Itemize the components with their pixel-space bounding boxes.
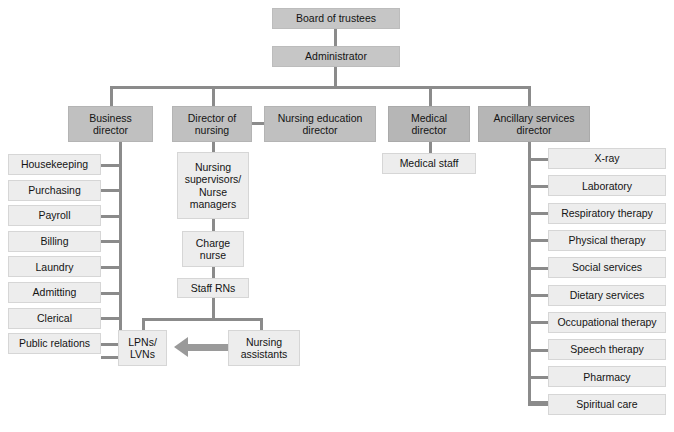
business-unit-connector-0 xyxy=(101,164,122,167)
business-unit-connector-4 xyxy=(101,266,122,269)
connector-board-to-administrator xyxy=(334,29,337,46)
ancillary-unit-0: X-ray xyxy=(548,148,666,169)
ancillary-unit-5: Dietary services xyxy=(548,285,666,306)
business-unit-connector-1 xyxy=(101,189,122,192)
node-ancillary-services-director: Ancillary services director xyxy=(478,106,590,142)
connector-nursing-split-bus xyxy=(142,318,263,321)
connector-medical-director-to-staff xyxy=(429,142,432,153)
node-board-of-trustees: Board of trustees xyxy=(272,8,400,29)
node-business-director: Business director xyxy=(68,106,153,142)
node-nursing-assistants: Nursing assistants xyxy=(228,330,300,366)
business-unit-connector-3 xyxy=(101,240,122,243)
connector-supervisors-to-charge-nurse xyxy=(212,219,215,231)
business-unit-5: Admitting xyxy=(8,282,101,303)
business-unit-1: Purchasing xyxy=(8,180,101,201)
node-administrator: Administrator xyxy=(272,46,400,67)
connector-charge-nurse-to-staff-rns xyxy=(212,267,215,278)
connector-bus-to-medical-director xyxy=(429,86,432,106)
connector-bus-to-lpns xyxy=(142,318,145,330)
business-unit-4: Laundry xyxy=(8,256,101,277)
business-unit-connector-5 xyxy=(101,292,122,295)
connector-ancillary-director-drop xyxy=(528,142,531,158)
connector-bus-to-business-director xyxy=(110,86,113,106)
connector-staff-rns-drop xyxy=(212,298,215,320)
ancillary-unit-3: Physical therapy xyxy=(548,230,666,251)
node-nursing-education-director: Nursing education director xyxy=(264,106,376,142)
ancillary-unit-7: Speech therapy xyxy=(548,339,666,360)
ancillary-unit-connector-6 xyxy=(528,321,548,324)
node-charge-nurse: Charge nurse xyxy=(182,231,244,267)
connector-nursing-to-supervisors xyxy=(212,142,215,152)
business-unit-2: Payroll xyxy=(8,205,101,226)
connector-nursing-to-education xyxy=(252,122,264,125)
connector-administrator-to-bus xyxy=(334,67,337,86)
business-unit-7: Public relations xyxy=(8,333,101,354)
ancillary-unit-6: Occupational therapy xyxy=(548,312,666,333)
ancillary-unit-connector-0 xyxy=(528,158,548,161)
connector-horizontal-bus xyxy=(110,86,530,89)
org-chart-canvas: Board of trustees Administrator Business… xyxy=(0,0,674,432)
ancillary-unit-connector-9 xyxy=(528,403,548,406)
ancillary-unit-2: Respiratory therapy xyxy=(548,203,666,224)
ancillary-unit-connector-7 xyxy=(528,349,548,352)
node-director-of-nursing: Director of nursing xyxy=(172,106,252,142)
ancillary-unit-connector-2 xyxy=(528,212,548,215)
ancillary-unit-4: Social services xyxy=(548,257,666,278)
node-nursing-supervisors: Nursing supervisors/ Nurse managers xyxy=(177,152,249,219)
node-lpns-lvns: LPNs/ LVNs xyxy=(118,330,167,366)
connector-bus-to-nursing-assistants xyxy=(260,318,263,330)
node-staff-rns: Staff RNs xyxy=(177,278,249,298)
connector-bus-to-ancillary-director xyxy=(528,86,531,106)
business-unit-0: Housekeeping xyxy=(8,154,101,175)
ancillary-unit-9: Spiritual care xyxy=(548,394,666,415)
business-unit-connector-6 xyxy=(101,317,122,320)
arrow-assistants-to-lpns-head xyxy=(174,337,188,357)
ancillary-unit-connector-8 xyxy=(528,376,548,379)
arrow-assistants-to-lpns-shaft xyxy=(188,344,230,351)
connector-business-director-drop xyxy=(119,142,122,158)
connector-bus-to-director-of-nursing xyxy=(212,86,215,106)
ancillary-unit-8: Pharmacy xyxy=(548,366,666,387)
ancillary-unit-connector-1 xyxy=(528,185,548,188)
spine-ancillary-units xyxy=(528,158,531,404)
business-unit-6: Clerical xyxy=(8,308,101,329)
business-unit-3: Billing xyxy=(8,231,101,252)
node-medical-director: Medical director xyxy=(388,106,470,142)
ancillary-unit-1: Laboratory xyxy=(548,175,666,196)
business-unit-connector-2 xyxy=(101,215,122,218)
ancillary-unit-connector-5 xyxy=(528,294,548,297)
node-medical-staff: Medical staff xyxy=(382,153,476,174)
ancillary-unit-connector-3 xyxy=(528,239,548,242)
ancillary-unit-connector-4 xyxy=(528,267,548,270)
